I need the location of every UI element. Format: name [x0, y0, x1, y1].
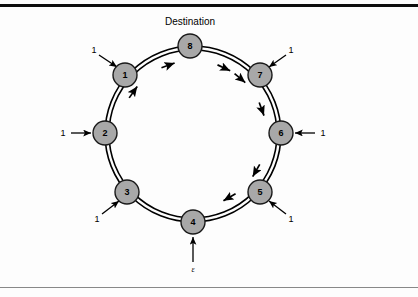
ring-diagram-canvas [0, 0, 418, 297]
input-arrow-node-5 [269, 201, 286, 214]
flow-arrow-6-to-7 [259, 102, 264, 115]
ring-node-4[interactable] [181, 210, 205, 234]
ring-node-6[interactable] [269, 121, 293, 145]
flow-arrow-7-to-8 [218, 65, 231, 71]
input-arrow-node-1 [99, 55, 117, 67]
ring-nodes-group [93, 34, 293, 234]
flow-arrow-3-to-2 [129, 86, 137, 97]
ring-node-7[interactable] [248, 63, 272, 87]
ring-network-figure: Destination 111ε11112345678 [0, 0, 418, 297]
ring-node-3[interactable] [115, 180, 139, 204]
ring-node-2[interactable] [93, 121, 117, 145]
flow-arrow-4-to-5 [223, 194, 235, 201]
ring-node-8[interactable] [178, 34, 202, 58]
flow-direction-arrows-group [129, 63, 264, 201]
input-arrow-node-7 [269, 55, 286, 67]
input-arrow-node-3 [102, 201, 119, 214]
flow-arrow-5-to-6 [253, 164, 260, 176]
flow-arrow-2-to-1 [161, 63, 174, 68]
ring-node-1[interactable] [113, 63, 137, 87]
flow-arrow-1-to-8 [235, 74, 246, 83]
ring-node-5[interactable] [248, 180, 272, 204]
